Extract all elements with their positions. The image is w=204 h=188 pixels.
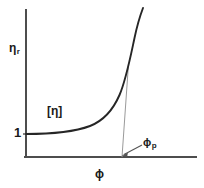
phi-p-leader-line <box>124 145 142 155</box>
y-tick-one-label: 1 <box>14 126 21 139</box>
plot-canvas <box>0 0 204 188</box>
y-axis-label: ηr <box>9 42 20 56</box>
y-axis-label-subscript: r <box>16 47 20 56</box>
viscosity-chart-figure: ηr 1 [η] ϕp ϕ <box>0 0 204 188</box>
relative-viscosity-curve <box>26 8 143 134</box>
phi-p-annotation: ϕp <box>143 137 157 150</box>
phi-p-subscript: p <box>151 141 156 150</box>
intrinsic-viscosity-annotation: [η] <box>47 105 62 117</box>
x-axis-label: ϕ <box>95 168 104 180</box>
phi-p-symbol: ϕ <box>143 136 151 148</box>
